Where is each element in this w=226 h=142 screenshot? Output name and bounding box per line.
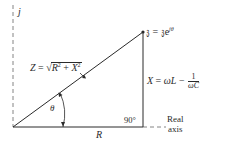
imaginary-axis-label: j [18, 7, 21, 17]
plus-sign: + [61, 62, 72, 73]
radicand-x-exp: 2 [78, 62, 81, 68]
sqrt-radicand: R2 + X2 [51, 62, 82, 73]
reactance-inductive-term: ωL [164, 75, 177, 86]
equals-sign: = [36, 62, 47, 73]
real-axis-label: Real axis [167, 115, 184, 135]
theta-arrow-bottom-icon [61, 122, 65, 127]
phasor-exponent: jθ [169, 26, 174, 32]
theta-arc [60, 93, 65, 127]
reactance-equals: = [153, 75, 164, 86]
reactance-capacitive-fraction: 1ωC [188, 73, 199, 90]
fraction-denominator: ωC [188, 82, 199, 90]
phasor-tip-dot [141, 30, 144, 33]
impedance-hypotenuse [13, 32, 143, 127]
right-angle-label: 90° [124, 116, 136, 125]
impedance-magnitude-formula: Z = √R2 + X2 [30, 62, 82, 73]
reactance-minus: − [176, 75, 187, 86]
resistance-label: R [96, 130, 102, 140]
phasor-formula: 𝔷 = 𝔷ejθ [146, 27, 174, 37]
phasor-base: 𝔷e [161, 26, 169, 37]
phasor-equals: = [150, 26, 161, 37]
angle-theta-label: θ [50, 104, 54, 113]
reactance-formula: X = ωL − 1ωC [147, 73, 199, 90]
real-axis-label-line2: axis [167, 125, 184, 135]
